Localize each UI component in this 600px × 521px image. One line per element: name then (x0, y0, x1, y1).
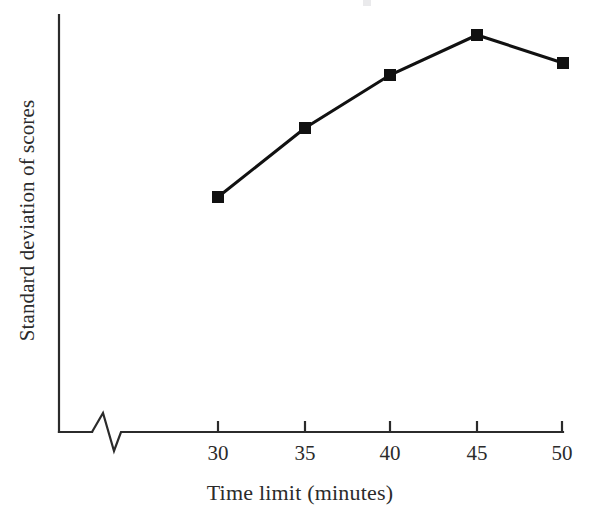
data-point-50 (558, 58, 569, 69)
data-point-40 (385, 70, 396, 81)
chart-figure: 30 35 40 45 50 Time limit (minutes) Stan… (0, 0, 600, 521)
y-axis-title: Standard deviation of scores (16, 99, 41, 340)
x-axis-ticks (218, 421, 562, 432)
series-line-std-dev (218, 35, 563, 197)
x-axis-title: Time limit (minutes) (0, 480, 600, 506)
data-point-35 (300, 123, 311, 134)
data-point-45 (472, 30, 483, 41)
x-tick-label-45: 45 (447, 441, 507, 466)
data-point-30 (213, 192, 224, 203)
x-tick-label-35: 35 (275, 441, 335, 466)
series-markers (213, 30, 569, 203)
y-axis-title-wrap: Standard deviation of scores (0, 0, 56, 440)
x-axis-break-icon (92, 413, 134, 451)
x-tick-label-40: 40 (360, 441, 420, 466)
x-tick-label-50: 50 (532, 441, 592, 466)
x-tick-label-30: 30 (188, 441, 248, 466)
